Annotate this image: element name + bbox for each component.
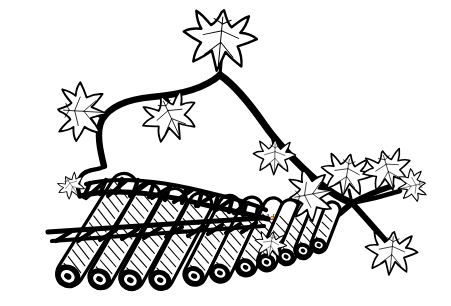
artwork-canvas: Adi bbox=[0, 0, 451, 306]
pan-flute-ivy-illustration: Adi bbox=[0, 0, 451, 306]
artist-signature: Adi bbox=[264, 213, 276, 222]
